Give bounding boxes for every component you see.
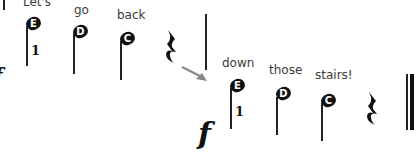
- barline: [205, 14, 207, 70]
- lyric: go: [74, 3, 89, 17]
- lyric: Let's: [23, 0, 51, 9]
- note-stem: [321, 103, 323, 141]
- lyric: back: [117, 8, 146, 22]
- dynamic-forte: f: [198, 116, 211, 151]
- note-stem: [276, 97, 278, 135]
- note-head: E: [24, 15, 43, 32]
- quarter-rest-icon: [163, 30, 179, 64]
- note-head: C: [118, 30, 137, 47]
- note-head: D: [274, 85, 293, 102]
- lyric: down: [222, 56, 254, 70]
- lyric: those: [269, 63, 302, 77]
- fingering: 1: [31, 43, 40, 58]
- barline-start: [3, 0, 5, 10]
- note-head: D: [71, 23, 90, 40]
- note-head: C: [319, 92, 338, 109]
- note-head: E: [228, 77, 247, 94]
- fingering: 1: [235, 104, 244, 119]
- note-stem: [120, 41, 122, 80]
- lyric: stairs!: [315, 68, 353, 82]
- note-stem: [230, 88, 232, 129]
- note-stem: [73, 34, 75, 74]
- arrow-icon: [180, 64, 210, 84]
- dynamic-forte: f: [0, 64, 3, 88]
- note-stem: [26, 26, 28, 66]
- final-barline-thin: [406, 74, 408, 130]
- quarter-rest-icon: [364, 92, 380, 126]
- final-barline-thick: [410, 74, 414, 130]
